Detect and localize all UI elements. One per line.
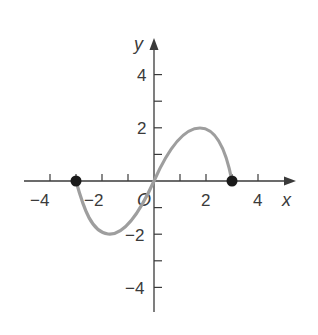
y-tick-label: 4 [137, 66, 146, 85]
endpoint-left [71, 176, 82, 187]
y-tick-label: −4 [125, 279, 144, 298]
endpoint-right [227, 176, 238, 187]
y-axis-label: y [132, 34, 144, 54]
y-tick-label: −2 [125, 226, 144, 245]
x-tick-label: 2 [201, 191, 210, 210]
x-tick-label: −4 [30, 191, 49, 210]
x-axis-label: x [281, 190, 292, 210]
y-tick-label: 2 [137, 119, 146, 138]
x-tick-label: 4 [253, 191, 262, 210]
y-axis-arrow-icon [150, 38, 159, 50]
x-axis-arrow-icon [284, 177, 296, 186]
x-tick-label: −2 [84, 191, 103, 210]
function-graph: −4 −2 2 4 x O 4 2 −2 −4 y [0, 0, 318, 335]
